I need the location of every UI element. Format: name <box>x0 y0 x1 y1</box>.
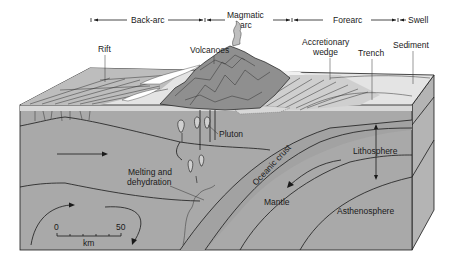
label-sediment: Sediment <box>393 40 430 50</box>
scale-max: 50 <box>116 222 126 232</box>
label-rift: Rift <box>98 44 111 54</box>
volcano-plume <box>233 21 242 46</box>
zone-arc: arc <box>240 20 253 30</box>
label-asthenosphere: Asthenosphere <box>337 206 394 216</box>
label-trench: Trench <box>358 48 384 58</box>
subduction-zone-block-diagram: Back-arc Magmatic arc Forearc Swell <box>0 0 460 265</box>
block-side-face <box>412 75 434 250</box>
label-accretionary: Accretionary <box>302 37 350 47</box>
scale-unit: km <box>83 238 94 248</box>
label-melting: Melting and <box>128 167 172 177</box>
label-pluton: Pluton <box>219 129 243 139</box>
label-mantle: Mantle <box>264 197 290 207</box>
label-wedge: wedge <box>312 47 338 57</box>
zone-header: Back-arc Magmatic arc Forearc Swell <box>91 10 428 30</box>
label-lithosphere: Lithosphere <box>353 146 398 156</box>
label-dehydration: dehydration <box>127 177 172 187</box>
zone-swell: Swell <box>408 15 428 25</box>
scale-min: 0 <box>54 222 59 232</box>
zone-magmatic: Magmatic <box>227 10 265 20</box>
zone-forearc: Forearc <box>333 15 363 25</box>
zone-back-arc: Back-arc <box>131 15 165 25</box>
label-volcanoes: Volcanoes <box>190 45 229 55</box>
